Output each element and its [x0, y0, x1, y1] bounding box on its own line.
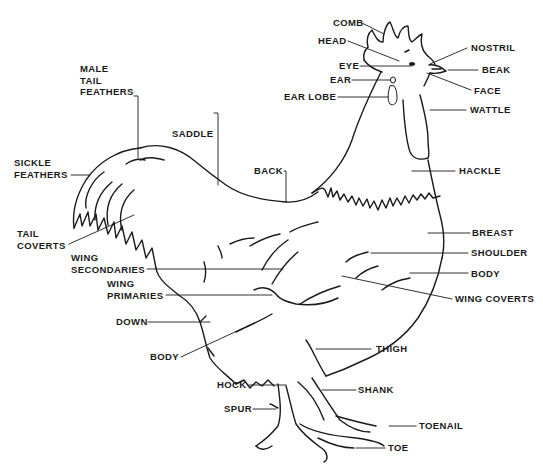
label-shoulder: SHOULDER	[471, 247, 528, 259]
brow-mark	[405, 50, 409, 52]
label-beak: BEAK	[482, 64, 511, 76]
label-nostril: NOSTRIL	[471, 42, 516, 54]
label-sickle-feathers: SICKLE FEATHERS	[14, 157, 68, 180]
rooster-anatomy-diagram: COMB HEAD NOSTRIL EYE BEAK EAR FACE EAR …	[0, 0, 543, 474]
eye-shape	[409, 62, 415, 66]
label-ear-lobe: EAR LOBE	[284, 91, 336, 103]
label-male-tail-feathers: MALE TAIL FEATHERS	[80, 63, 134, 98]
label-head: HEAD	[318, 35, 347, 47]
label-hackle: HACKLE	[459, 165, 501, 177]
label-tail-coverts: TAIL COVERTS	[17, 228, 66, 251]
label-hock: HOCK	[217, 379, 247, 391]
label-thigh: THIGH	[376, 343, 408, 355]
label-wing-coverts: WING COVERTS	[455, 293, 534, 305]
label-back: BACK	[254, 165, 283, 177]
label-eye: EYE	[339, 60, 359, 72]
ear-shape	[391, 77, 396, 83]
label-wattle: WATTLE	[470, 104, 511, 116]
label-spur: SPUR	[224, 403, 252, 415]
label-saddle: SADDLE	[172, 128, 213, 140]
label-wing-secondaries: WING SECONDARIES	[71, 252, 145, 275]
label-body-left: BODY	[150, 351, 179, 363]
ear-lobe-shape	[388, 86, 397, 105]
label-shank: SHANK	[358, 384, 394, 396]
label-body-right: BODY	[471, 268, 500, 280]
label-down: DOWN	[116, 316, 148, 328]
label-toe: TOE	[388, 442, 409, 454]
label-face: FACE	[474, 85, 501, 97]
label-ear: EAR	[330, 74, 351, 86]
label-toenail: TOENAIL	[419, 420, 463, 432]
label-comb: COMB	[333, 17, 364, 29]
label-wing-primaries: WING PRIMARIES	[107, 278, 163, 301]
label-breast: BREAST	[472, 227, 513, 239]
